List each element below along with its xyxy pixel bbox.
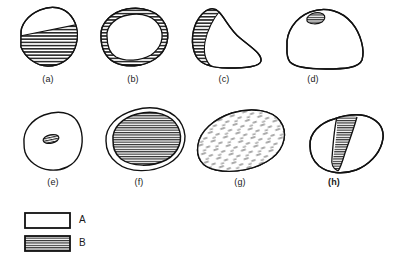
panel-b-specimen: [95, 3, 175, 75]
panel-label-c: (c): [219, 74, 230, 84]
panel-a-specimen: [20, 7, 80, 70]
legend-label-b: B: [79, 237, 86, 248]
panel-g-specimen: [192, 104, 292, 179]
panel-label-h: (h): [328, 177, 340, 187]
legend-swatch-b: [25, 236, 70, 251]
panel-h-specimen: [310, 115, 383, 173]
panel-label-g: (g): [234, 177, 245, 187]
legend-swatch-a: [25, 213, 70, 228]
panel-label-e: (e): [47, 177, 58, 187]
panel-label-f: (f): [135, 177, 144, 187]
figure-root: (a) (b) (c) (d) (e) (f) (g) (h) A B: [0, 0, 399, 259]
panel-label-d: (d): [307, 74, 318, 84]
panel-c-specimen: [190, 9, 262, 70]
panel-d-specimen: [287, 9, 363, 69]
panel-label-a: (a): [42, 74, 53, 84]
panel-f-specimen: [100, 104, 195, 179]
specimen-diagram-svg: [0, 0, 399, 259]
panel-label-b: (b): [127, 74, 138, 84]
panel-e-specimen: [24, 112, 82, 170]
legend-label-a: A: [79, 214, 86, 225]
